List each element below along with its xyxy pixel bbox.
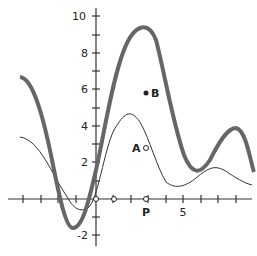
y-tick-4: 4 bbox=[81, 120, 88, 133]
y-tick-10: 10 bbox=[72, 10, 86, 23]
thick-curve bbox=[20, 27, 254, 228]
y-tick-neg2: -2 bbox=[77, 229, 88, 242]
label-p: P bbox=[142, 206, 150, 219]
y-tick-2: 2 bbox=[81, 156, 88, 169]
label-a: A bbox=[132, 142, 141, 155]
label-b: B bbox=[151, 87, 159, 100]
function-graph: 10 8 6 4 2 -2 5 A B P bbox=[0, 0, 257, 256]
y-tick-8: 8 bbox=[81, 47, 88, 60]
point-b bbox=[144, 91, 149, 96]
point-a bbox=[144, 146, 149, 151]
x-tick-5: 5 bbox=[180, 206, 187, 219]
thin-curve bbox=[20, 114, 252, 210]
y-tick-6: 6 bbox=[81, 83, 88, 96]
